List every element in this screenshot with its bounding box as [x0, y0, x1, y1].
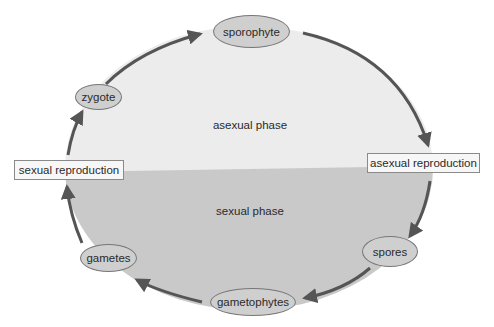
process-asexual-reproduction: asexual reproduction [367, 153, 480, 173]
stage-gametophytes: gametophytes [210, 288, 296, 316]
stage-spores: spores [362, 236, 418, 267]
sexual-phase-label: sexual phase [205, 205, 295, 217]
process-sexual-reproduction: sexual reproduction [14, 160, 124, 180]
stage-zygote: zygote [75, 84, 122, 110]
stage-gametes: gametes [80, 244, 137, 272]
stage-sporophyte: sporophyte [213, 15, 290, 48]
asexual-phase-label: asexual phase [205, 119, 295, 131]
